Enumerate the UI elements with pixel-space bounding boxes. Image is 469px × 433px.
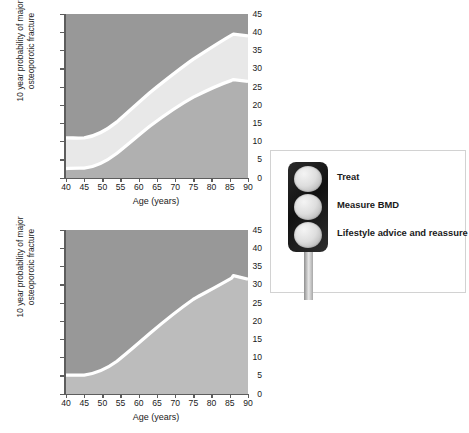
legend-panel: Treat Measure BMD Lifestyle advice and r… [270,150,466,293]
plot-canvas-top [66,14,248,178]
legend-label-treat: Treat [337,171,359,182]
risk-chart-without-bmd: 10 year probability of major osteoporoti… [0,0,262,216]
plot-area-bottom [66,230,248,394]
y-axis-line-bottom [64,230,66,394]
middle-lamp-icon [294,194,322,220]
y-axis-title-line1: 10 year probability of major [15,197,26,337]
traffic-light-pole [304,250,313,300]
x-axis-title-bottom: Age (years) [64,412,248,422]
y-axis-title-bottom: 10 year probability of major osteoporoti… [15,197,37,337]
x-tick-label-90: 90 [236,183,260,192]
risk-chart-with-bmd: 10 year probability of major osteoporoti… [0,216,262,432]
traffic-light-housing [288,162,328,252]
y-axis-title-top: 10 year probability of major osteoporoti… [15,0,37,121]
area-chart-bottom [66,230,248,394]
y-axis-title-line2: osteoporotic fracture [26,197,37,337]
traffic-light-icon [288,162,328,262]
area-chart-top [66,14,248,178]
legend-label-lifestyle-advice: Lifestyle advice and reassure [337,227,468,238]
figure-page: 10 year probability of major osteoporoti… [0,0,469,433]
legend-label-measure-bmd: Measure BMD [337,199,399,210]
plot-area-top [66,14,248,178]
y-axis-line-top [64,14,66,178]
upper-lamp-icon [294,166,322,192]
x-tick-label-90: 90 [236,399,260,408]
plot-canvas-bottom [66,230,248,394]
y-axis-title-line2: osteoporotic fracture [26,0,37,121]
x-axis-title-top: Age (years) [64,196,248,206]
lower-lamp-icon [294,222,322,248]
y-axis-title-line1: 10 year probability of major [15,0,26,121]
